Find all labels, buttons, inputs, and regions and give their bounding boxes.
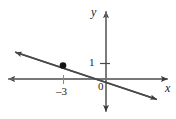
plotted-line <box>15 52 157 100</box>
y-tick-label-1: 1 <box>89 57 95 68</box>
x-tick-label-neg3: –3 <box>56 86 67 97</box>
plotted-point-marker <box>60 62 67 69</box>
origin-label: 0 <box>98 81 104 92</box>
y-axis-label: y <box>91 6 96 18</box>
coordinate-plane-graph <box>0 0 176 119</box>
graph-figure: y x 1 0 –3 <box>0 0 176 119</box>
x-axis-label: x <box>165 82 170 94</box>
